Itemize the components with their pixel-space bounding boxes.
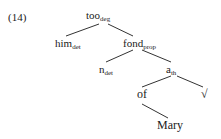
- edge-too-him: [66, 24, 99, 36]
- node-text: fond: [123, 37, 143, 49]
- edge-of-mary: [142, 104, 168, 118]
- node-text: him: [55, 37, 72, 49]
- node-subscript: th: [171, 69, 176, 77]
- edge-a-root: [177, 76, 203, 87]
- node-him: himdet: [55, 37, 81, 53]
- node-subscript: prop: [143, 43, 156, 51]
- node-text: Mary: [157, 118, 183, 132]
- node-n: ndet: [99, 63, 113, 79]
- node-text: of: [137, 87, 147, 101]
- node-root: √: [201, 88, 208, 100]
- node-subscript: det: [72, 43, 81, 51]
- node-text: too: [86, 9, 100, 21]
- node-subscript: deg: [100, 15, 110, 23]
- node-mary: Mary: [157, 119, 183, 131]
- node-too: toodeg: [86, 9, 110, 25]
- edge-too-fond: [108, 24, 133, 36]
- root-symbol-icon: √: [201, 87, 208, 101]
- node-fond: fondprop: [123, 37, 156, 53]
- node-a: ath: [166, 63, 176, 79]
- node-of: of: [137, 88, 147, 100]
- node-subscript: det: [105, 69, 114, 77]
